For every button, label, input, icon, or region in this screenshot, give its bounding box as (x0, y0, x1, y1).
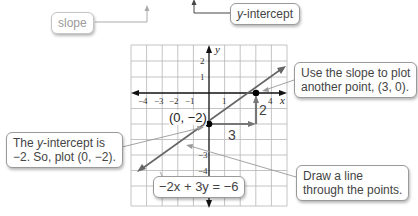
y-tick-2: 2 (200, 56, 205, 66)
rise-label: 2 (259, 102, 267, 118)
x-axis-label: x (280, 94, 285, 106)
slope-connector (95, 5, 150, 22)
y-tick-1: 1 (200, 72, 205, 82)
draw-line-callout: Draw a line through the points. (296, 165, 409, 201)
y-int-expl-line2: −2. So, plot (0, −2). (13, 150, 116, 164)
use-slope-callout: Use the slope to plot another point, (3,… (294, 62, 417, 98)
y-intercept-text: -intercept (243, 7, 293, 21)
x-tick-neg2: −2 (169, 96, 179, 106)
y-tick-neg4: −4 (198, 166, 208, 176)
use-slope-line2: another point, (3, 0). (301, 80, 410, 94)
x-tick-neg1: −1 (185, 96, 195, 106)
use-slope-line1: Use the slope to plot (301, 66, 410, 80)
slope-callout-text: slope (58, 16, 87, 30)
y-axis-label: y (215, 43, 220, 55)
draw-line-line2: through the points. (303, 183, 402, 197)
equation-text: −2x + 3y = −6 (159, 179, 239, 194)
run-label: 3 (228, 127, 236, 143)
point-3-0 (253, 90, 260, 97)
equation-label: −2x + 3y = −6 (153, 176, 245, 198)
y-tick-neg3: −3 (198, 150, 208, 160)
x-tick-1: 1 (222, 96, 227, 106)
y-intercept-explanation-callout: The y-intercept is −2. So, plot (0, −2). (6, 132, 123, 168)
draw-line-line1: Draw a line (303, 169, 402, 183)
y-intercept-callout: y-intercept (230, 3, 300, 25)
x-tick-neg4: −4 (138, 96, 148, 106)
x-tick-neg3: −3 (154, 96, 164, 106)
x-tick-4: 4 (268, 96, 273, 106)
point-label-0-neg2: (0, −2) (169, 110, 207, 125)
graphed-line (137, 66, 286, 172)
slope-callout: slope (51, 12, 94, 34)
y-int-expl-line1: The y-intercept is (13, 136, 116, 150)
y-intercept-connector (192, 0, 231, 13)
